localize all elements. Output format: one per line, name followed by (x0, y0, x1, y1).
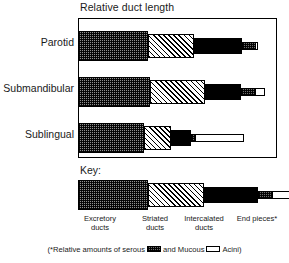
key-segment-striated (148, 183, 204, 207)
bar-row-parotid (78, 26, 277, 66)
row-label-sublingual: Sublingual (0, 128, 74, 140)
segment-striated-parotid (148, 34, 194, 58)
segment-endpiece-submandibular (241, 88, 265, 96)
endpiece-mucous-parotid (256, 43, 257, 49)
footnote-middle: and Mucous (163, 245, 204, 254)
footnote: (*Relative amounts of serousand MucousAc… (0, 245, 289, 255)
footnote-suffix: Acini) (222, 245, 241, 254)
endpiece-mucous-sublingual (196, 135, 243, 141)
key-segment-excretory (78, 180, 148, 210)
segment-striated-submandibular (150, 80, 205, 104)
key-label-endpieces-line1: End pieces* (237, 214, 278, 223)
segment-intercalated-sublingual (171, 130, 191, 146)
key-endpiece-mucous (273, 192, 289, 198)
footnote-prefix: (*Relative amounts of serous (48, 245, 146, 254)
key-bar (78, 178, 277, 212)
segment-endpiece-parotid (242, 42, 258, 50)
salivary-gland-duct-length-figure: Relative duct length Parotid Submandibul… (0, 0, 289, 263)
key-label-striated: Striated ducts (130, 215, 180, 232)
key-labels: Excretory ducts Striated ducts Intercala… (0, 215, 289, 241)
key-endpiece-serous (259, 192, 273, 198)
key-label-excretory-line2: ducts (91, 223, 109, 232)
row-label-submandibular: Submandibular (0, 82, 74, 94)
chart-title: Relative duct length (80, 1, 174, 14)
segment-intercalated-submandibular (205, 84, 241, 100)
segment-excretory-parotid (78, 31, 148, 61)
endpiece-serous-submandibular (242, 89, 256, 95)
key-label-excretory: Excretory ducts (72, 215, 128, 232)
mucous-swatch-icon (206, 246, 220, 252)
key-title: Key: (80, 164, 101, 176)
row-label-parotid: Parotid (0, 36, 74, 48)
segment-excretory-sublingual (78, 123, 144, 153)
serous-swatch-icon (147, 246, 161, 252)
segment-excretory-submandibular (78, 77, 150, 107)
endpiece-serous-parotid (243, 43, 256, 49)
key-label-endpieces: End pieces* (229, 215, 285, 224)
key-label-intercalated: Intercalated ducts (176, 215, 232, 232)
bar-row-sublingual (78, 118, 277, 158)
key-label-intercalated-line2: ducts (195, 223, 213, 232)
bar-row-submandibular (78, 72, 277, 112)
key-label-striated-line2: ducts (146, 223, 164, 232)
key-segment-intercalated (204, 187, 258, 203)
segment-endpiece-sublingual (191, 134, 244, 142)
segment-intercalated-parotid (194, 38, 242, 54)
segment-striated-sublingual (144, 126, 171, 150)
endpiece-mucous-submandibular (256, 89, 264, 95)
key-segment-endpiece (258, 191, 289, 199)
